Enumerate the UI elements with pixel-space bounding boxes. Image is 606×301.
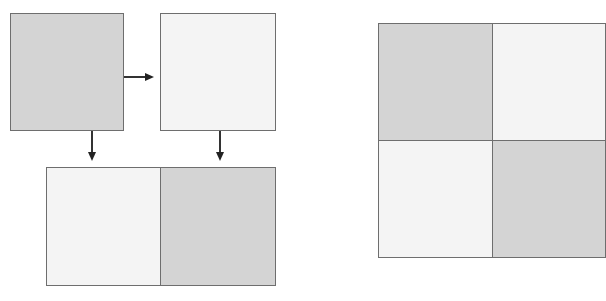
arrow-down-left-line xyxy=(91,131,93,153)
arrow-right-head-icon xyxy=(145,73,154,81)
grid-cell-bottom-left xyxy=(378,140,493,258)
top-left-box xyxy=(10,13,124,131)
grid-cell-top-left xyxy=(378,23,493,141)
bottom-row-cell-2 xyxy=(160,167,276,286)
arrow-down-left-head-icon xyxy=(88,152,96,161)
grid-cell-top-right xyxy=(492,23,606,141)
bottom-row xyxy=(46,167,276,286)
checker-grid xyxy=(378,23,606,258)
arrow-down-right-head-icon xyxy=(216,152,224,161)
arrow-right-line xyxy=(124,76,146,78)
grid-cell-bottom-right xyxy=(492,140,606,258)
bottom-row-cell-1 xyxy=(46,167,161,286)
arrow-down-right-line xyxy=(219,131,221,153)
top-right-box xyxy=(160,13,276,131)
